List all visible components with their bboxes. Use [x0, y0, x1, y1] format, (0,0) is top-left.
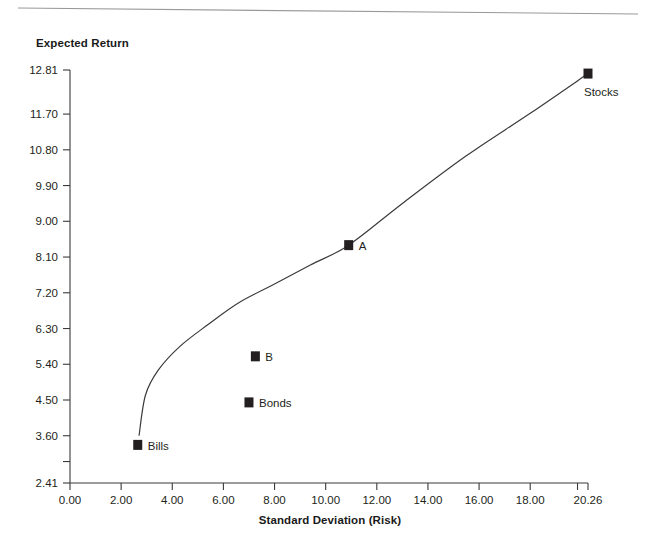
y-tick-label: 11.70 [30, 108, 58, 120]
x-tick-label: 10.00 [311, 494, 340, 506]
y-tick-label: 8.10 [36, 251, 58, 263]
x-axis-ticks: 0.002.004.006.008.0010.0012.0014.0016.00… [59, 483, 603, 506]
data-point-label: Bonds [259, 397, 292, 409]
data-point-marker [133, 440, 142, 450]
efficient-frontier-curve [139, 74, 588, 436]
x-tick-label: 20.26 [574, 494, 603, 506]
x-tick-label: 6.00 [212, 494, 234, 506]
y-tick-label: 2.41 [36, 477, 58, 489]
data-point-label: B [265, 351, 273, 363]
y-axis-title: Expected Return [36, 37, 129, 49]
y-tick-label: 10.80 [29, 144, 58, 156]
data-point-markers: BillsBondsBAStocks [133, 69, 619, 452]
data-point-label: Bills [148, 440, 169, 452]
x-tick-label: 0.00 [59, 494, 81, 506]
data-point-marker [251, 351, 260, 361]
figure-container: Expected Return 12.8111.7010.809.909.008… [0, 0, 653, 550]
top-horizontal-rule [18, 8, 638, 14]
x-tick-label: 8.00 [263, 494, 285, 506]
y-tick-label: 9.90 [36, 180, 58, 192]
y-tick-label: 5.40 [36, 358, 58, 370]
y-tick-label: 3.60 [36, 430, 58, 442]
x-tick-label: 16.00 [465, 494, 494, 506]
x-tick-label: 2.00 [110, 494, 132, 506]
y-tick-label: 9.00 [36, 215, 58, 227]
x-tick-label: 14.00 [414, 494, 443, 506]
data-point: Bills [133, 440, 169, 452]
y-tick-label: 12.81 [29, 64, 58, 76]
data-point-label: A [359, 240, 367, 252]
data-point-marker [584, 69, 593, 79]
y-axis-ticks: 12.8111.7010.809.909.008.107.206.305.404… [29, 64, 70, 489]
data-point-label: Stocks [584, 86, 619, 98]
data-point: B [251, 351, 274, 363]
y-tick-label: 6.30 [36, 323, 58, 335]
investment-risk-return-chart: Expected Return 12.8111.7010.809.909.008… [0, 0, 653, 550]
data-point: A [344, 240, 367, 252]
x-tick-label: 4.00 [161, 494, 183, 506]
x-axis-title: Standard Deviation (Risk) [259, 514, 402, 526]
x-tick-label: 12.00 [362, 494, 391, 506]
x-tick-label: 18.00 [516, 494, 545, 506]
data-point-marker [244, 397, 253, 407]
y-tick-label: 7.20 [36, 287, 58, 299]
data-point-marker [344, 240, 353, 250]
y-tick-label: 4.50 [36, 394, 58, 406]
data-point: Stocks [584, 69, 619, 98]
data-point: Bonds [244, 397, 291, 409]
